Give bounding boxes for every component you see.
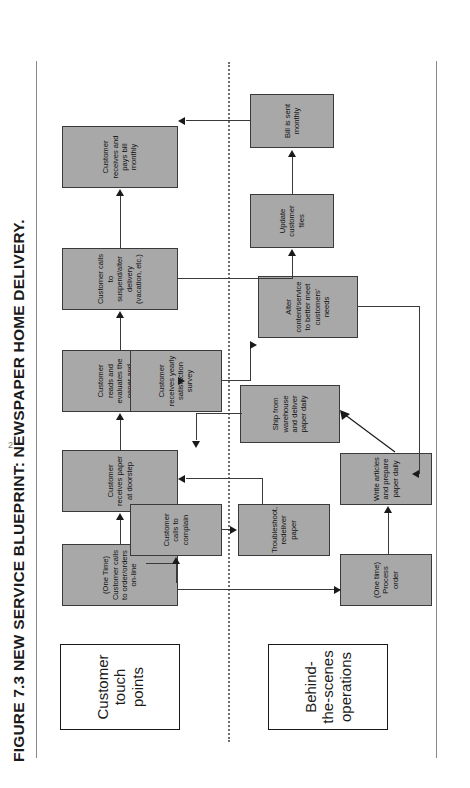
arrowhead-alter-to-write-articles xyxy=(412,470,419,478)
node-survey[interactable]: Customer receives yearly satisfaction su… xyxy=(130,350,222,412)
arrowhead-process-to-write xyxy=(384,506,392,513)
arrowhead-survey-to-alter xyxy=(250,341,257,349)
node-suspend-alter[interactable]: Customer calls to suspend/alter delivery… xyxy=(62,248,178,310)
lane-label-backstage-line1: Behind- xyxy=(302,650,319,723)
node-receives-paper[interactable]: Customer receives paper at doorstep xyxy=(62,450,178,512)
node-bill-sent[interactable]: Bill is sent monthly xyxy=(250,94,334,148)
line-of-visibility xyxy=(228,62,230,742)
edge-survey-to-alter-horz xyxy=(250,345,251,381)
arrowhead-ship-to-receives-paper xyxy=(192,441,200,448)
lane-label-backstage-operations: Behind- the-scenes operations xyxy=(268,644,388,730)
edge-suspend-to-pays-bill xyxy=(120,195,121,248)
node-troubleshoot[interactable]: Troubleshoot, redeliver paper xyxy=(238,504,330,556)
service-blueprint-figure: FIGURE 7.3 NEW SERVICE BLUEPRINT: NEWSPA… xyxy=(0,0,470,788)
edge-suspend-to-update-horz xyxy=(292,255,293,279)
arrowhead-bill-to-pays-bill xyxy=(178,117,185,125)
node-process-order[interactable]: (One time) Process order xyxy=(340,554,432,606)
arrowhead-reads-to-suspend xyxy=(116,311,124,318)
node-update-files[interactable]: Update customer files xyxy=(250,194,334,248)
arrowhead-order-to-complain xyxy=(172,557,180,564)
edge-order-to-complain-horz xyxy=(176,563,177,583)
arrowhead-suspend-to-update-files xyxy=(288,249,296,256)
bottom-divider xyxy=(436,61,437,758)
edge-write-to-ship xyxy=(300,398,400,458)
node-complain[interactable]: Customer calls to complain xyxy=(130,504,222,556)
edge-troubleshoot-return-vert xyxy=(186,478,263,479)
edge-ship-to-receives-vert xyxy=(196,413,242,414)
edge-reads-to-suspend xyxy=(120,317,121,350)
arrowhead-reads-to-survey xyxy=(178,377,185,385)
edge-alter-return-horz xyxy=(419,306,420,474)
figure-page: FIGURE 7.3 NEW SERVICE BLUEPRINT: NEWSPA… xyxy=(0,0,470,788)
edge-ship-to-receives-horz xyxy=(196,413,197,440)
lane-label-backstage-line3: operations xyxy=(337,650,354,723)
lane-label-customer-line2: touch xyxy=(111,654,128,719)
edge-troubleshoot-return-horz xyxy=(262,478,263,504)
edge-suspend-to-update-vert xyxy=(178,278,292,279)
edge-bill-to-pays-vert xyxy=(186,120,251,121)
node-alter-content[interactable]: Alter content/service to better meet cus… xyxy=(258,276,358,338)
arrowhead-suspend-to-pays-bill xyxy=(116,189,124,196)
arrowhead-order-to-receives-paper xyxy=(116,513,124,520)
node-pays-bill[interactable]: Customer receives and pays bill monthly xyxy=(62,126,178,188)
lane-label-customer-touch-points: Customer touch points xyxy=(60,644,180,730)
arrowhead-update-to-bill xyxy=(288,150,296,157)
arrowhead-troubleshoot-to-receives-paper xyxy=(178,475,185,483)
edge-alter-return-vert xyxy=(358,306,420,307)
arrowhead-order-to-process xyxy=(334,586,341,594)
arrowhead-receives-paper-to-reads xyxy=(116,413,124,420)
edge-survey-to-alter-vert xyxy=(222,380,250,381)
edge-process-to-write xyxy=(388,512,389,554)
title-divider xyxy=(36,61,37,758)
lane-label-backstage-line2: the-scenes xyxy=(319,650,336,723)
lane-label-customer-line3: points xyxy=(129,654,146,719)
edge-order-to-receives-paper xyxy=(120,519,121,544)
edge-order-to-process-vert xyxy=(178,589,340,590)
edge-update-to-bill xyxy=(292,156,293,194)
figure-title: FIGURE 7.3 NEW SERVICE BLUEPRINT: NEWSPA… xyxy=(10,62,28,762)
lane-label-customer-line1: Customer xyxy=(94,654,111,719)
page-number: 2 xyxy=(8,440,13,450)
edge-receives-paper-to-reads xyxy=(120,419,121,450)
arrowhead-complain-to-troubleshoot xyxy=(230,526,237,534)
